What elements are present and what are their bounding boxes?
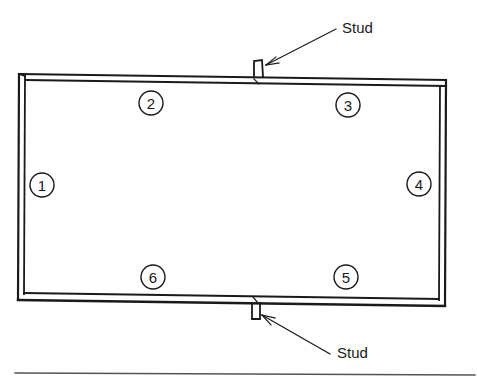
position-circles <box>30 91 431 289</box>
position-5-label: 5 <box>334 265 358 289</box>
bottom-stud-label: Stud <box>337 345 368 360</box>
position-1-label: 1 <box>30 173 54 197</box>
bottom-stud <box>252 297 330 354</box>
bottom-rule <box>15 373 475 375</box>
left-post <box>18 74 25 300</box>
bottom-rail <box>18 293 445 306</box>
frame-drawing <box>0 0 477 379</box>
position-2-label: 2 <box>139 91 163 115</box>
top-stud <box>254 29 336 84</box>
frame-diagram: Stud Stud 1 2 3 4 5 6 <box>0 0 477 379</box>
position-4-label: 4 <box>407 172 431 196</box>
right-post <box>439 80 446 306</box>
position-6-label: 6 <box>141 265 165 289</box>
top-stud-label: Stud <box>342 20 373 35</box>
position-3-label: 3 <box>336 93 360 117</box>
top-rail <box>19 74 446 86</box>
